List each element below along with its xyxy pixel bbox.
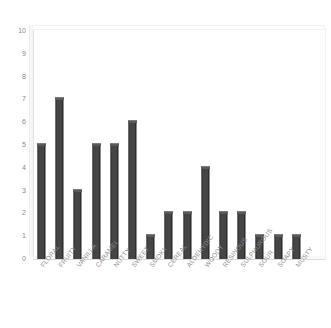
x-axis-tick-labels: FLORALFRUITYVANILLACARAMELNUTTYSWEETSMOK…	[0, 0, 331, 328]
bar-chart-figure: 109876543210 FLORALFRUITYVANILLACARAMELN…	[0, 0, 331, 328]
x-axis-tick-soapy: SOAPY	[276, 246, 296, 269]
x-axis-tick-nutty: NUTTY	[112, 246, 131, 268]
x-axis-tick-sweet: SWEET	[130, 245, 150, 268]
x-axis-tick-sour: SOUR	[257, 249, 275, 269]
x-axis-tick-smoky: SMOKY	[148, 245, 169, 269]
x-axis-tick-musty: MUSTY	[294, 245, 314, 268]
